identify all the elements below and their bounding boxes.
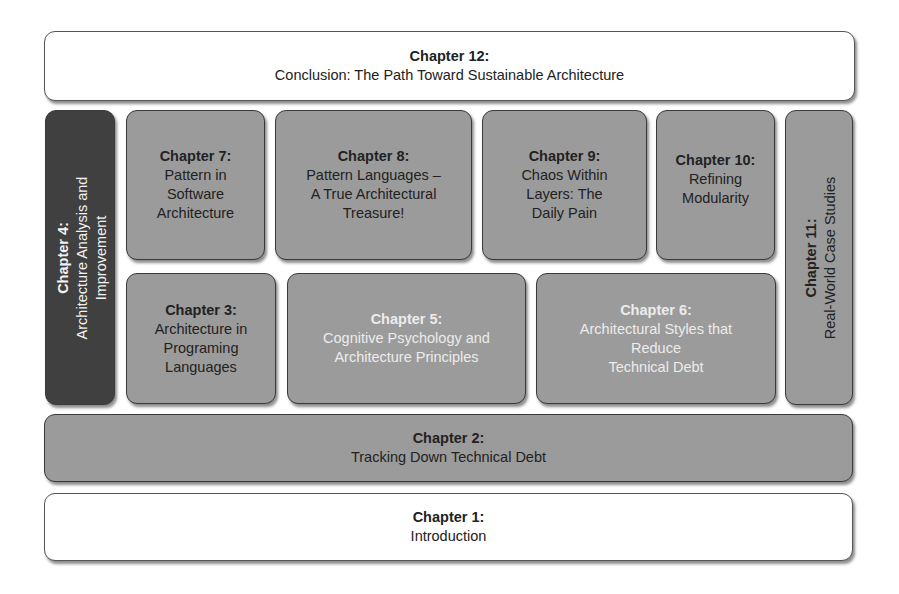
chapter-2-subtitle: Tracking Down Technical Debt — [351, 448, 546, 467]
chapter-9-line2: Layers: The — [526, 185, 602, 204]
chapter-9-title: Chapter 9: — [529, 147, 601, 166]
chapter-6-line1: Architectural Styles that — [580, 320, 732, 339]
chapter-7-title: Chapter 7: — [160, 147, 232, 166]
chapter-6-line2: Reduce — [631, 339, 681, 358]
chapter-12-title: Chapter 12: — [410, 47, 490, 66]
chapter-3-box: Chapter 3: Architecture in Programing La… — [126, 273, 276, 404]
chapter-9-box: Chapter 9: Chaos Within Layers: The Dail… — [482, 110, 647, 260]
chapter-6-title: Chapter 6: — [620, 301, 692, 320]
chapter-7-box: Chapter 7: Pattern in Software Architect… — [126, 110, 265, 260]
chapter-9-line1: Chaos Within — [521, 166, 607, 185]
chapter-3-title: Chapter 3: — [165, 301, 237, 320]
chapter-3-line1: Architecture in — [155, 320, 248, 339]
chapter-4-line1: Architecture Analysis and — [72, 177, 91, 340]
chapter-5-title: Chapter 5: — [371, 310, 443, 329]
chapter-10-line1: Refining — [689, 170, 742, 189]
chapter-5-box: Chapter 5: Cognitive Psychology and Arch… — [287, 273, 526, 404]
chapter-5-line1: Cognitive Psychology and — [323, 329, 490, 348]
chapter-10-title: Chapter 10: — [676, 151, 756, 170]
chapter-11-line1: Real-World Case Studies — [821, 177, 840, 340]
chapter-7-line3: Architecture — [157, 204, 234, 223]
chapter-11-title: Chapter 11: — [802, 219, 821, 298]
chapter-12-subtitle: Conclusion: The Path Toward Sustainable … — [275, 66, 624, 85]
chapter-2-box: Chapter 2: Tracking Down Technical Debt — [44, 414, 853, 482]
chapter-4-box: Chapter 4: Architecture Analysis and Imp… — [45, 110, 115, 405]
chapter-6-box: Chapter 6: Architectural Styles that Red… — [536, 273, 776, 404]
chapter-1-box: Chapter 1: Introduction — [44, 493, 853, 561]
chapter-3-line2: Programing — [164, 339, 239, 358]
chapter-8-line3: Treasure! — [343, 204, 405, 223]
chapter-1-title: Chapter 1: — [413, 508, 485, 527]
chapter-5-line2: Architecture Principles — [334, 348, 478, 367]
chapter-10-line2: Modularity — [682, 189, 749, 208]
chapter-6-line3: Technical Debt — [608, 358, 703, 377]
chapter-12-box: Chapter 12: Conclusion: The Path Toward … — [44, 31, 855, 101]
chapter-7-line1: Pattern in — [164, 166, 226, 185]
chapter-8-line1: Pattern Languages – — [306, 166, 441, 185]
chapter-11-box: Chapter 11: Real-World Case Studies — [785, 110, 853, 405]
chapter-3-line3: Languages — [165, 358, 237, 377]
chapter-7-line2: Software — [167, 185, 224, 204]
chapter-8-line2: A True Architectural — [311, 185, 437, 204]
chapter-4-line2: Improvement — [91, 216, 110, 301]
chapter-8-box: Chapter 8: Pattern Languages – A True Ar… — [275, 110, 472, 260]
chapter-8-title: Chapter 8: — [338, 147, 410, 166]
chapter-4-title: Chapter 4: — [53, 222, 72, 294]
chapter-9-line3: Daily Pain — [532, 204, 597, 223]
chapter-10-box: Chapter 10: Refining Modularity — [656, 110, 775, 260]
chapter-2-title: Chapter 2: — [413, 429, 485, 448]
chapter-1-subtitle: Introduction — [411, 527, 487, 546]
